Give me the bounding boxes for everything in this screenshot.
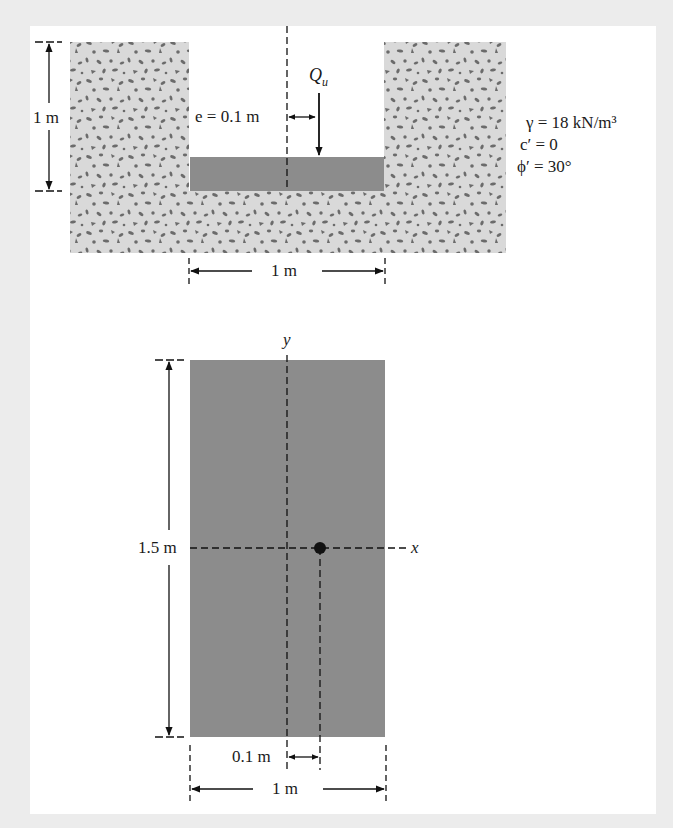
load-subscript: u (322, 75, 328, 89)
length-label: 1.5 m (137, 539, 178, 556)
friction-angle-label: ϕ′ = 30° (517, 158, 572, 175)
unit-weight-label: γ = 18 kN/m³ (526, 114, 617, 131)
load-point (314, 542, 326, 554)
plan-eccentricity-label: 0.1 m (232, 748, 271, 765)
eccentricity-text: e = 0.1 m (195, 107, 259, 126)
load-label: Qu (309, 66, 328, 88)
load-symbol: Q (309, 65, 322, 85)
plan-width-label: 1 m (272, 780, 298, 797)
y-axis-label: y (283, 331, 291, 348)
soil-mass (70, 42, 506, 253)
x-axis-label: x (411, 539, 419, 556)
section-width-label: 1 m (271, 262, 297, 279)
eccentricity-label: e = 0.1 m (195, 108, 259, 125)
depth-label: 1 m (31, 109, 61, 126)
cohesion-label: c′ = 0 (520, 136, 558, 153)
